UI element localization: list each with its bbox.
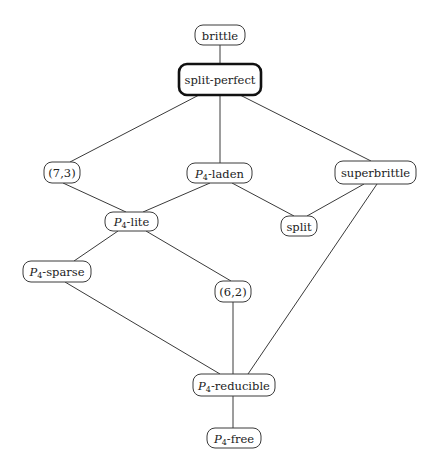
nodes-layer: brittlesplit-perfect(7,3)P4-ladensuperbr…	[23, 25, 416, 448]
node-p4-free: P4-free	[207, 428, 261, 448]
edge-p4-lite-to-p4-sparse	[74, 231, 118, 261]
node-7-3: (7,3)	[44, 162, 80, 183]
node-label: P4-laden	[194, 167, 244, 182]
node-split: split	[281, 216, 317, 236]
edge-p4-laden-to-p4-lite	[143, 183, 210, 212]
edge-p4-sparse-to-p4-reducible	[65, 282, 220, 374]
edge-split-perfect-to-superbrittle	[240, 95, 371, 161]
node-label: split	[286, 220, 312, 234]
node-label: P4-sparse	[28, 265, 84, 280]
hasse-diagram: brittlesplit-perfect(7,3)P4-ladensuperbr…	[0, 0, 436, 473]
node-label: superbrittle	[341, 166, 410, 180]
node-brittle: brittle	[195, 25, 245, 45]
edges-layer	[63, 45, 377, 428]
node-label: split-perfect	[185, 73, 256, 87]
node-label: (6,2)	[219, 285, 246, 299]
edge-p4-laden-to-split	[232, 183, 294, 216]
edge-p4-lite-to-6-2	[146, 231, 231, 281]
node-label: P4-free	[213, 432, 254, 447]
edge-superbrittle-to-split	[307, 184, 364, 216]
node-p4-laden: P4-laden	[187, 163, 252, 183]
node-split-perfect: split-perfect	[179, 64, 261, 95]
node-p4-reducible: P4-reducible	[193, 374, 275, 396]
edge-7-3-to-p4-lite	[63, 183, 126, 212]
node-label: brittle	[202, 29, 238, 43]
edge-split-perfect-to-7-3	[70, 95, 199, 162]
node-p4-lite: P4-lite	[105, 212, 158, 231]
node-p4-sparse: P4-sparse	[23, 261, 91, 282]
node-label: P4-lite	[113, 215, 150, 230]
node-superbrittle: superbrittle	[335, 161, 416, 184]
node-label: (7,3)	[48, 166, 75, 180]
node-6-2: (6,2)	[215, 281, 251, 302]
